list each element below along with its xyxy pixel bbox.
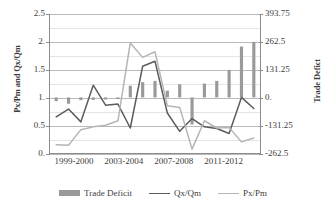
y-axis-right-tick-label: 393.75 [265,9,290,18]
bar-trade-deficit [55,97,58,101]
legend-item[interactable]: Trade Deficit [59,188,132,198]
chart-container: Px/Pm and Qx/Qm Trade Defict 0.0.51.1.52… [0,0,326,208]
y-axis-left-tick-label: 0. [38,149,45,158]
y-axis-left-tick-mark [46,126,50,127]
y-axis-left-ticks: 0.0.51.1.52.2.5 [0,0,45,208]
y-axis-right-tick-mark [259,126,263,127]
gridline-major [50,154,260,155]
bar-trade-deficit [67,97,70,103]
x-axis-tick-label: 2003-2004 [104,156,143,166]
legend-swatch-bar-icon [59,190,80,196]
y-axis-right-tick-mark [259,98,263,99]
bar-trade-deficit [141,82,144,97]
y-axis-right-tick-label: 262.5 [265,37,285,46]
legend-swatch-line-dark-icon [149,193,170,194]
y-axis-left-tick-mark [46,70,50,71]
x-axis-tick-label: 2007-2008 [154,156,193,166]
legend-item-label: Qx/Qm [174,188,201,198]
x-axis-tick-label: 1999-2000 [54,156,93,166]
legend-item[interactable]: Px/Pm [218,188,267,198]
bar-trade-deficit [178,84,181,97]
data-layer [50,14,260,153]
line-qx-qm [56,61,254,133]
bar-trade-deficit [104,97,107,99]
bar-trade-deficit [129,86,132,98]
bar-trade-deficit [116,97,119,99]
bar-trade-deficit [240,47,243,98]
legend-item-label: Px/Pm [243,188,267,198]
chart-legend: Trade DeficitQx/QmPx/Pm [0,184,326,202]
bar-trade-deficit [79,97,82,100]
x-axis-tick-label: 2011-2012 [204,156,243,166]
y-axis-right-tick-mark [259,70,263,71]
y-axis-right-tick-mark [259,42,263,43]
x-axis-ticks: 1999-20002003-20042007-20082011-2012 [49,156,261,170]
y-axis-left-tick-label: 1.5 [34,65,45,74]
bar-trade-deficit [203,84,206,98]
y-axis-left-tick-mark [46,154,50,155]
plot-area [49,14,261,154]
y-axis-right-ticks: -262.5-131.250.131.25262.5393.75 [265,0,326,208]
bar-trade-deficit [166,91,169,98]
y-axis-right-tick-mark [259,14,263,15]
bar-trade-deficit [252,42,255,97]
y-axis-left-tick-mark [46,14,50,15]
bar-trade-deficit [153,81,156,98]
y-axis-right-tick-label: -131.25 [265,121,293,130]
y-axis-left-tick-label: 2.5 [34,9,45,18]
y-axis-right-tick-label: 0. [265,93,272,102]
y-axis-left-tick-label: 0.5 [34,121,45,130]
legend-item-label: Trade Deficit [84,188,132,198]
y-axis-right-tick-mark [259,154,263,155]
bar-trade-deficit [215,81,218,98]
legend-swatch-line-light-icon [218,193,239,194]
bar-trade-deficit [92,97,95,100]
y-axis-right-tick-label: 131.25 [265,65,290,74]
y-axis-left-tick-mark [46,42,50,43]
y-axis-left-tick-label: 2. [38,37,45,46]
legend-item[interactable]: Qx/Qm [149,188,201,198]
y-axis-right-tick-label: -262.5 [265,149,288,158]
y-axis-left-tick-label: 1. [38,93,45,102]
bar-trade-deficit [228,70,231,98]
y-axis-left-tick-mark [46,98,50,99]
